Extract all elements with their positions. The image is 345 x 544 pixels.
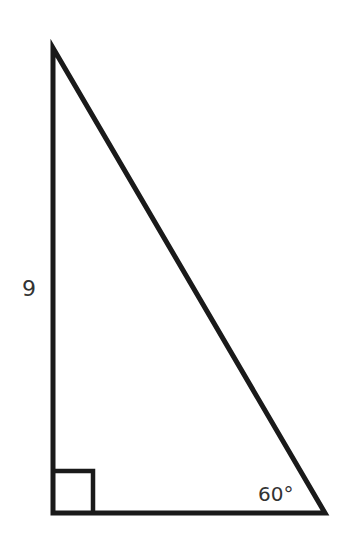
angle-label: 60° [258, 484, 293, 504]
right-triangle [53, 48, 325, 513]
triangle-figure [0, 0, 345, 544]
side-length-label: 9 [22, 278, 36, 300]
right-angle-marker [53, 471, 93, 513]
